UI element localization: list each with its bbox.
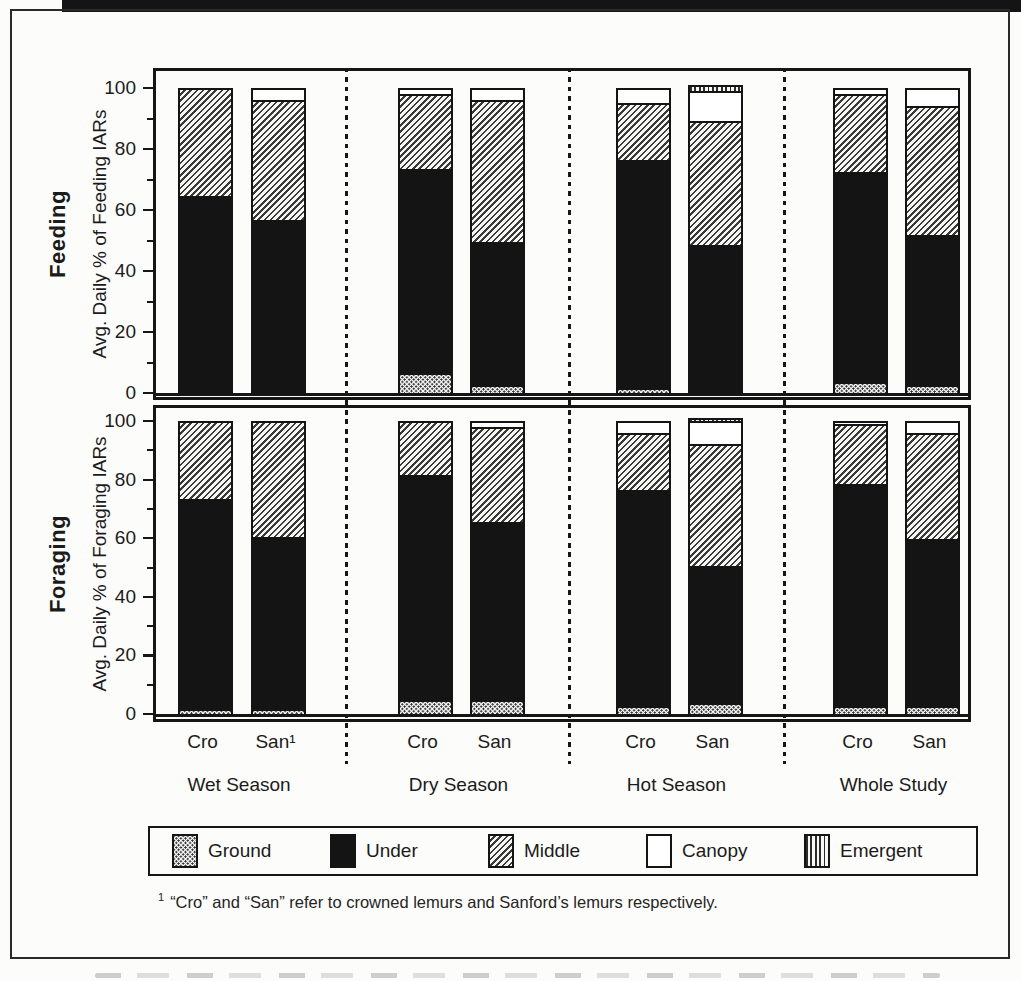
segment-under [400, 475, 451, 702]
y-tick [143, 537, 153, 539]
bar-label: Cro [168, 731, 238, 753]
y-tick [143, 148, 153, 150]
segment-under [253, 220, 304, 393]
y-axis-label-foraging: Avg. Daily % of Foraging IARs [89, 436, 111, 691]
cropped-caption-fragment [95, 973, 940, 978]
segment-ground [180, 711, 231, 714]
bar-feeding-wet-san [251, 88, 306, 395]
bar-label: San [460, 731, 530, 753]
bar-foraging-wet-san [251, 421, 306, 716]
bar-foraging-hot-cro [616, 421, 671, 716]
segment-middle [618, 105, 669, 160]
legend-label-canopy: Canopy [682, 840, 748, 862]
segment-middle [690, 123, 741, 244]
segment-under [400, 169, 451, 375]
segment-ground [907, 708, 958, 714]
bar-foraging-dry-cro [398, 421, 453, 716]
panel-title-feeding: Feeding [45, 190, 71, 278]
segment-canopy [253, 90, 304, 102]
middle-pattern-swatch [488, 834, 514, 868]
segment-middle [907, 435, 958, 540]
legend-label-ground: Ground [208, 840, 271, 862]
segment-canopy [472, 90, 523, 102]
bar-foraging-wet-cro [178, 421, 233, 716]
segment-middle [907, 108, 958, 235]
y-tick [143, 479, 153, 481]
segment-middle [618, 435, 669, 490]
segment-ground [835, 708, 886, 714]
y-axis-label-feeding: Avg. Daily % of Feeding IARs [89, 110, 111, 359]
y-tick-minor [147, 301, 153, 303]
segment-canopy [835, 423, 886, 426]
segment-under [618, 490, 669, 708]
segment-under [472, 242, 523, 387]
y-tick [143, 713, 153, 715]
season-label: Hot Season [607, 774, 747, 796]
panel-foraging: 020406080100 [153, 405, 971, 722]
segment-canopy [690, 93, 741, 123]
segment-middle [835, 426, 886, 484]
bar-label: San¹ [241, 731, 311, 753]
y-tick-minor [147, 362, 153, 364]
y-tick [143, 87, 153, 89]
segment-ground [253, 711, 304, 714]
legend-item-canopy: Canopy [646, 834, 804, 868]
y-tick-label: 100 [94, 77, 136, 99]
bar-label: Cro [606, 731, 676, 753]
bar-label: San [895, 731, 965, 753]
y-tick-minor [147, 567, 153, 569]
y-tick-minor [147, 684, 153, 686]
segment-under [180, 196, 231, 393]
segment-middle [180, 90, 231, 196]
y-tick-minor [147, 118, 153, 120]
bar-label: Cro [388, 731, 458, 753]
season-label: Wet Season [169, 774, 309, 796]
segment-under [618, 160, 669, 390]
y-tick [143, 596, 153, 598]
y-tick-label: 0 [94, 382, 136, 404]
y-tick-minor [147, 508, 153, 510]
y-tick [143, 331, 153, 333]
segment-under [690, 566, 741, 706]
y-tick-label: 0 [94, 703, 136, 725]
segment-middle [472, 102, 523, 241]
season-label: Dry Season [389, 774, 529, 796]
y-tick-minor [147, 240, 153, 242]
y-tick [143, 270, 153, 272]
legend-label-emergent: Emergent [840, 840, 922, 862]
segment-under [907, 235, 958, 387]
legend-label-middle: Middle [524, 840, 580, 862]
panel-title-foraging: Foraging [45, 514, 71, 612]
emergent-pattern-swatch [804, 834, 830, 868]
footnote-marker: 1 [158, 891, 164, 903]
segment-ground [472, 702, 523, 714]
segment-under [835, 172, 886, 384]
segment-canopy [907, 90, 958, 108]
segment-middle [400, 96, 451, 169]
segment-ground [472, 387, 523, 393]
canopy-pattern-swatch [646, 834, 672, 868]
segment-under [907, 539, 958, 708]
y-tick-minor [147, 449, 153, 451]
legend-item-middle: Middle [488, 834, 646, 868]
segment-emergent [690, 420, 741, 423]
bar-label: San [678, 731, 748, 753]
segment-under [180, 499, 231, 711]
legend: GroundUnderMiddleCanopyEmergent [148, 826, 978, 876]
segment-middle [253, 423, 304, 536]
segment-ground [835, 384, 886, 393]
bar-foraging-whole-san [905, 421, 960, 716]
segment-under [253, 537, 304, 712]
segment-ground [618, 390, 669, 393]
segment-canopy [618, 90, 669, 105]
segment-canopy [907, 423, 958, 435]
segment-canopy [400, 90, 451, 96]
bar-feeding-hot-cro [616, 88, 671, 395]
legend-item-under: Under [330, 834, 488, 868]
figure-frame: 020406080100FeedingAvg. Daily % of Feedi… [10, 9, 1010, 959]
segment-canopy [835, 90, 886, 96]
bar-foraging-hot-san [688, 418, 743, 716]
bar-label: Cro [823, 731, 893, 753]
y-tick [143, 209, 153, 211]
bar-feeding-dry-cro [398, 88, 453, 395]
